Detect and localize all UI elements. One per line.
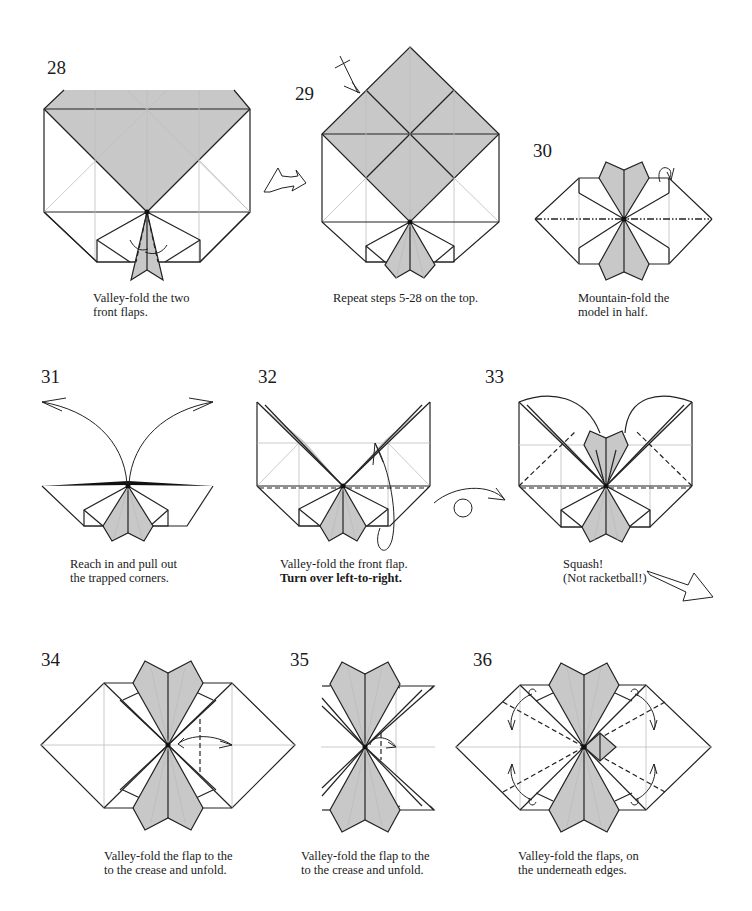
diagram-step-34: [41, 661, 295, 830]
diagram-step-30: [535, 162, 712, 280]
hollow-arrow-icon: [264, 168, 306, 192]
diagram-step-29: [322, 47, 499, 278]
diagram-step-33: [519, 396, 692, 542]
hollow-arrow-icon: [647, 571, 713, 601]
turn-over-icon: [434, 488, 505, 517]
diagram-step-32: [257, 402, 430, 550]
diagram-step-28: [44, 90, 250, 280]
diagram-step-36: [456, 663, 711, 832]
diagram-step-35: [321, 662, 435, 832]
diagram-canvas: [0, 0, 752, 911]
diagram-step-31: [42, 398, 213, 541]
repeat-arrow-icon: [335, 56, 360, 93]
